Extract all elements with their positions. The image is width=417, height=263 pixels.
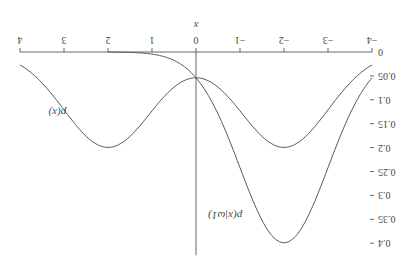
y-tick-label: 0.25 [378,167,396,178]
x-tick-label: −4 [367,35,378,46]
y-tick-label: 0.05 [378,71,396,82]
x-tick-label: 1 [150,35,155,46]
y-tick-label: 0.15 [378,119,396,130]
x-tick-label: −2 [279,35,290,46]
x-tick-label: −3 [323,35,334,46]
annotation-p-x: p(x) [48,106,67,119]
y-tick-label: 0.3 [378,190,391,201]
chart: −4−3−2−101234x00.050.10.150.20.250.30.35… [0,0,417,263]
labels: −4−3−2−101234x00.050.10.150.20.250.30.35… [18,20,396,249]
y-tick-label: 0.35 [378,214,396,225]
y-tick-label: 0.1 [378,95,391,106]
x-tick-label: 4 [18,35,23,46]
x-tick-label: −1 [235,35,246,46]
chart-svg: −4−3−2−101234x00.050.10.150.20.250.30.35… [0,0,417,263]
y-tick-label: 0.4 [378,238,391,249]
y-tick-label: 0 [378,47,383,58]
x-tick-label: 3 [62,35,67,46]
x-tick-label: 0 [194,35,199,46]
x-tick-label: 2 [106,35,111,46]
y-tick-label: 0.2 [378,143,391,154]
x-axis-label: x [193,20,199,32]
annotation-p-x-given-omega1: p(x|ω1) [208,209,243,222]
